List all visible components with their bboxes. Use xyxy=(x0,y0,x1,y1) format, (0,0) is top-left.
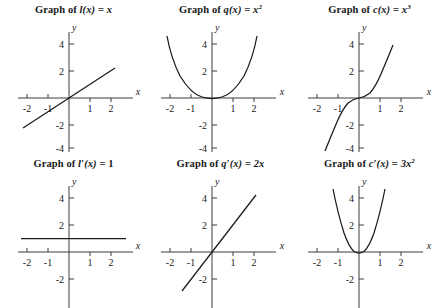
y-tick-label: 2 xyxy=(59,66,64,77)
curve-q-prime xyxy=(182,195,256,291)
x-tick-label: -2 xyxy=(313,103,321,114)
y-tick-label: -2 xyxy=(56,120,64,131)
y-axis-label: y xyxy=(214,176,220,187)
y-tickmarks xyxy=(212,44,217,148)
x-tick-label: -2 xyxy=(166,103,174,114)
plot-area-l: -2 -1 1 2 4 2 -2 -4 x y xyxy=(0,14,147,154)
x-tick-label: 1 xyxy=(88,257,93,268)
x-axis-label: x xyxy=(279,86,285,97)
x-tick-label: 2 xyxy=(399,257,404,268)
y-tick-label: 4 xyxy=(349,39,354,50)
panel-q-prime: Graph of q′(x) = 2x -2 -1 1 xyxy=(147,154,294,308)
x-tick-label: 2 xyxy=(109,257,114,268)
y-tick-label: -2 xyxy=(346,120,354,131)
x-tick-label: -2 xyxy=(23,103,31,114)
x-tick-label: 2 xyxy=(252,257,257,268)
y-tick-label: 2 xyxy=(202,66,207,77)
y-tick-label: -2 xyxy=(199,120,207,131)
y-tick-label: 2 xyxy=(349,220,354,231)
y-axis-label: y xyxy=(361,22,367,33)
plot-area-q-prime: -2 -1 1 2 4 2 -2 x y xyxy=(147,168,294,308)
plot-area-l-prime: -2 -1 1 2 4 2 -2 x y xyxy=(0,168,147,308)
y-tick-label: 2 xyxy=(202,220,207,231)
y-axis-label: y xyxy=(361,176,367,187)
x-tick-label: 1 xyxy=(231,103,236,114)
x-tick-label: 1 xyxy=(378,103,383,114)
y-axis-label: y xyxy=(71,22,77,33)
y-tick-label: 4 xyxy=(202,193,207,204)
panel-q: Graph of q(x) = x2 -2 -1 xyxy=(147,0,294,154)
y-tickmarks xyxy=(359,44,364,148)
y-tick-label: -4 xyxy=(199,143,207,154)
x-axis-label: x xyxy=(135,240,141,251)
x-tick-label: -1 xyxy=(44,257,52,268)
x-tick-label: -2 xyxy=(313,257,321,268)
y-tick-label: 2 xyxy=(59,220,64,231)
x-tick-label: 1 xyxy=(88,103,93,114)
x-tick-label: -1 xyxy=(187,257,195,268)
panel-l-prime: Graph of l′(x) = 1 -2 -1 1 xyxy=(0,154,147,308)
x-tick-label: 2 xyxy=(399,103,404,114)
x-tick-label: 1 xyxy=(378,257,383,268)
y-tick-label: -4 xyxy=(56,143,64,154)
x-tick-label: 2 xyxy=(252,103,257,114)
derivative-graphs-figure: Graph of l(x) = x -2 -1 xyxy=(0,0,443,308)
y-tick-label: 4 xyxy=(59,39,64,50)
x-tick-label: -1 xyxy=(187,103,195,114)
y-tick-label: -2 xyxy=(56,274,64,285)
x-tick-label: 2 xyxy=(109,103,114,114)
plot-area-q: -2 -1 1 2 4 2 -2 -4 x y xyxy=(147,14,294,154)
y-tick-label: 4 xyxy=(202,39,207,50)
panel-c-prime: Graph of c′(x) = 3x2 -2 -1 1 xyxy=(296,154,443,308)
y-tick-label: -2 xyxy=(199,274,207,285)
x-tick-label: -1 xyxy=(334,257,342,268)
panel-c: Graph of c(x) = x3 -2 -1 xyxy=(296,0,443,154)
x-tick-label: -2 xyxy=(166,257,174,268)
y-tick-label: -4 xyxy=(346,143,354,154)
y-axis-label: y xyxy=(71,176,77,187)
panel-l: Graph of l(x) = x -2 -1 xyxy=(0,0,147,154)
x-tick-label: 1 xyxy=(231,257,236,268)
y-tick-label: -2 xyxy=(346,274,354,285)
y-tickmarks xyxy=(359,198,364,279)
x-axis-label: x xyxy=(279,240,285,251)
y-tick-label: 4 xyxy=(349,193,354,204)
x-axis-label: x xyxy=(426,86,432,97)
x-axis-label: x xyxy=(135,86,141,97)
y-tickmarks xyxy=(212,198,217,279)
x-axis-label: x xyxy=(426,240,432,251)
x-tick-label: -2 xyxy=(23,257,31,268)
y-tick-label: 2 xyxy=(349,66,354,77)
y-axis-label: y xyxy=(214,22,220,33)
plot-area-c: -2 -1 1 2 4 2 -2 -4 x y xyxy=(296,14,443,154)
y-tick-label: 4 xyxy=(59,193,64,204)
plot-area-c-prime: -2 -1 1 2 4 2 -2 x y xyxy=(296,168,443,308)
